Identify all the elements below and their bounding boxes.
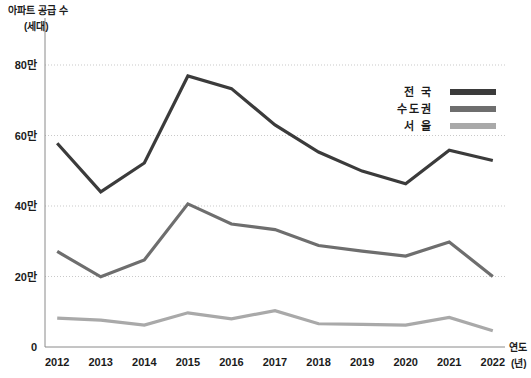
x-axis-unit: (년)	[511, 357, 527, 369]
legend-swatch	[450, 123, 496, 129]
y-axis-unit: (세대)	[24, 20, 49, 32]
y-tick-label: 80만	[15, 58, 37, 71]
chart-legend: 전 국수도권서 울	[397, 85, 496, 132]
y-tick-label: 0	[31, 341, 37, 353]
legend-label: 전 국	[404, 85, 433, 98]
x-tick-label: 2014	[132, 356, 157, 368]
x-tick-label: 2018	[306, 356, 330, 368]
apartment-supply-line-chart: 아파트 공급 수 (세대) 연도 (년) 020만40만60만80만 20122…	[0, 0, 531, 378]
legend-swatch	[450, 89, 496, 95]
x-tick-label: 2015	[176, 356, 200, 368]
y-tick-label: 40만	[15, 199, 37, 212]
legend-label: 수도권	[397, 103, 433, 115]
legend-swatch	[450, 106, 496, 112]
x-tick-label: 2022	[481, 356, 505, 368]
x-tick-label: 2013	[89, 356, 113, 368]
x-axis-title: 연도	[509, 341, 527, 353]
x-tick-label: 2016	[219, 356, 243, 368]
legend-label: 서 울	[404, 119, 433, 132]
y-tick-label: 20만	[15, 270, 37, 283]
y-axis-tick-labels: 020만40만60만80만	[15, 58, 37, 353]
x-tick-label: 2020	[393, 356, 417, 368]
y-tick-label: 60만	[15, 129, 37, 142]
x-axis-tick-labels: 2012201320142015201620172018201920202021…	[45, 356, 505, 368]
series-line	[57, 204, 493, 277]
series-line	[57, 311, 493, 331]
x-tick-label: 2012	[45, 356, 69, 368]
x-tick-label: 2017	[263, 356, 287, 368]
chart-canvas: 아파트 공급 수 (세대) 연도 (년) 020만40만60만80만 20122…	[0, 0, 531, 378]
y-axis-title: 아파트 공급 수	[8, 4, 68, 16]
x-tick-label: 2021	[437, 356, 461, 368]
x-tick-label: 2019	[350, 356, 374, 368]
